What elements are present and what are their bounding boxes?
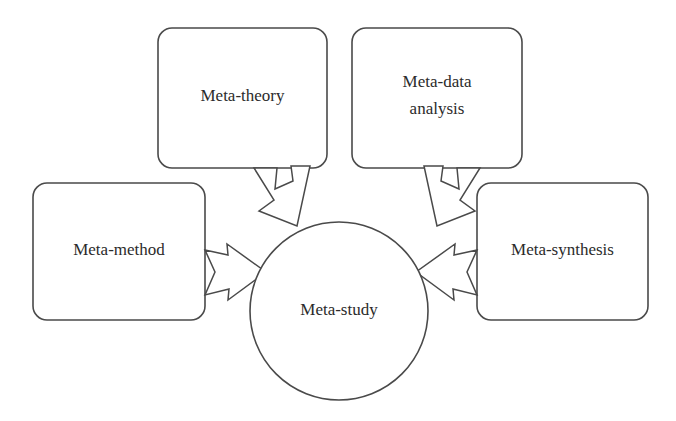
meta-study-label: Meta-study bbox=[300, 300, 378, 319]
block-arrow-down-left-icon bbox=[424, 166, 480, 226]
meta-data-analysis-label-line2: analysis bbox=[410, 99, 465, 118]
meta-theory-label: Meta-theory bbox=[200, 86, 285, 105]
meta-study-diagram: Meta-theory Meta-data analysis Meta-meth… bbox=[0, 0, 676, 421]
meta-synthesis-label: Meta-synthesis bbox=[511, 240, 614, 259]
node-meta-theory[interactable]: Meta-theory bbox=[158, 28, 327, 168]
arrow-meta-data-analysis-to-meta-study bbox=[424, 166, 480, 226]
node-meta-synthesis[interactable]: Meta-synthesis bbox=[477, 183, 648, 320]
node-meta-study[interactable]: Meta-study bbox=[250, 222, 428, 400]
meta-method-label: Meta-method bbox=[73, 240, 165, 259]
block-arrow-down-right-icon bbox=[254, 166, 310, 226]
node-meta-method[interactable]: Meta-method bbox=[33, 183, 205, 320]
node-meta-data-analysis[interactable]: Meta-data analysis bbox=[352, 28, 522, 168]
arrow-meta-theory-to-meta-study bbox=[254, 166, 310, 226]
meta-data-analysis-label-line1: Meta-data bbox=[403, 72, 472, 91]
diagram-canvas: Meta-theory Meta-data analysis Meta-meth… bbox=[0, 0, 676, 421]
